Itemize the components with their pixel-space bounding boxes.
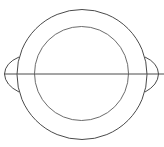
- pot-top-view-diagram: [0, 0, 164, 147]
